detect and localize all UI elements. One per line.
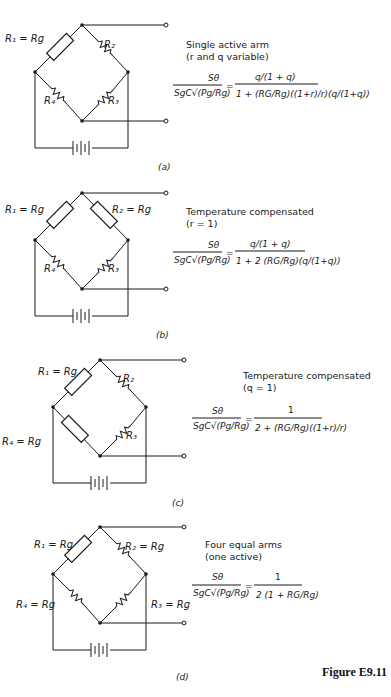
label-r4: R₄ [44, 95, 55, 106]
label-r2: R₂ = Rg [112, 204, 151, 215]
gauge-r4-icon [61, 415, 88, 442]
label-r4: R₄ = Rg [2, 436, 41, 447]
panel-title-line1: Single active arm [186, 39, 269, 50]
panel-c: R₁ = Rg R₂ R₄ = Rg R₃ [2, 358, 186, 490]
label-r3: R₃ [126, 430, 137, 441]
svg-text:Sθ: Sθ [208, 73, 220, 83]
label-r1: R₁ = Rg [34, 539, 73, 550]
panel-title-line1: Temperature compensated [185, 206, 314, 217]
svg-text:SgC√(Pg/Rg): SgC√(Pg/Rg) [193, 588, 250, 598]
svg-text:=: = [245, 581, 253, 591]
panel-c-title-line1: Temperature compensated [242, 370, 371, 381]
svg-text:q/(1 + q): q/(1 + q) [255, 72, 295, 82]
equation-d: Sθ SgC√(Pg/Rg) = 1 2 (1 + RG/Rg) [192, 572, 319, 600]
panel-b: R₁ = Rg R₂ = Rg R₄ R₃ Temperature compen… [5, 191, 341, 340]
label-r2: R₂ [104, 39, 115, 50]
caption-c: (c) [172, 498, 184, 508]
label-r2: R₂ = Rg [125, 541, 164, 552]
battery-icon [70, 141, 89, 155]
panel-d-title-line1: Four equal arms [205, 539, 282, 550]
label-r1: R₁ = Rg [5, 204, 44, 215]
figure-label: Figure E9.11 [322, 665, 387, 679]
battery-icon [70, 309, 89, 323]
svg-text:q/(1 + q): q/(1 + q) [250, 239, 290, 249]
panel-a: R₁ = Rg R₂ R₄ R₃ Single active arm (r an… [5, 23, 370, 172]
panel-c-title-line2: (q = 1) [243, 382, 277, 393]
svg-text:1 + (RG/Rg)((1+r)/r)(q/(1+q)): 1 + (RG/Rg)((1+r)/r)(q/(1+q)) [236, 89, 370, 99]
svg-text:Sθ: Sθ [208, 240, 220, 250]
svg-text:SgC√(Pg/Rg): SgC√(Pg/Rg) [193, 421, 250, 431]
bridge-circuit-a [33, 23, 168, 155]
equation-b: Sθ SgC√(Pg/Rg) = q/(1 + q) 1 + 2 (RG/Rg)… [173, 239, 341, 266]
battery-icon [88, 643, 107, 657]
svg-text:SgC√(Pg/Rg): SgC√(Pg/Rg) [174, 88, 231, 98]
svg-text:=: = [226, 248, 234, 258]
label-r4: R₄ [44, 263, 55, 274]
panel-title-line2: (r and q variable) [186, 51, 269, 62]
label-r2: R₂ [123, 373, 134, 384]
svg-text:=: = [245, 414, 253, 424]
svg-text:2 + (RG/Rg)((1+r)/r): 2 + (RG/Rg)((1+r)/r) [255, 423, 347, 433]
equation-c: Sθ SgC√(Pg/Rg) = 1 2 + (RG/Rg)((1+r)/r) [192, 405, 347, 433]
svg-text:1: 1 [275, 572, 281, 582]
svg-text:2 (1 + RG/Rg): 2 (1 + RG/Rg) [256, 590, 319, 600]
label-r4: R₄ = Rg [16, 599, 55, 610]
label-r3: R₃ [108, 263, 119, 274]
label-r3: R₃ = Rg [151, 599, 190, 610]
caption-a: (a) [158, 162, 171, 172]
label-r3: R₃ [108, 95, 119, 106]
gauge-r1-icon [47, 201, 74, 228]
panel-d-title-line2: (one active) [205, 551, 262, 562]
svg-text:1: 1 [288, 405, 294, 415]
equation-a: Sθ SgC√(Pg/Rg) = q/(1 + q) 1 + (RG/Rg)((… [173, 72, 370, 99]
resistor-r4-icon [65, 586, 86, 607]
label-r1: R₁ = Rg [5, 33, 44, 44]
panel-title-line2: (r = 1) [186, 218, 217, 229]
caption-d: (d) [176, 672, 189, 682]
panel-d: R₁ = Rg R₂ = Rg R₄ = Rg R₃ = Rg [16, 525, 190, 657]
svg-text:=: = [226, 81, 234, 91]
bridge-circuit-c [51, 358, 186, 490]
svg-text:Sθ: Sθ [212, 406, 224, 416]
resistor-r3-icon [112, 590, 133, 611]
gauge-r1-icon [47, 33, 74, 60]
figure-canvas: R₁ = Rg R₂ R₄ R₃ Single active arm (r an… [0, 0, 391, 697]
svg-text:1 + 2 (RG/Rg)(q/(1+q)): 1 + 2 (RG/Rg)(q/(1+q)) [236, 256, 341, 266]
svg-text:Sθ: Sθ [212, 572, 224, 582]
label-r1: R₁ = Rg [38, 366, 77, 377]
svg-text:SgC√(Pg/Rg): SgC√(Pg/Rg) [174, 255, 231, 265]
caption-b: (b) [156, 330, 169, 340]
battery-icon [88, 476, 107, 490]
